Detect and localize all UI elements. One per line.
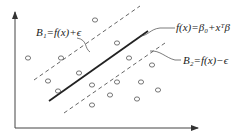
data-point — [89, 83, 94, 87]
upper-label-leader — [77, 38, 90, 52]
data-point — [45, 79, 50, 83]
data-point — [114, 41, 119, 45]
svr-diagram: B₁=f(x)+ϵ f(x)=β₀+xᵀβ B₂=f(x)−ϵ — [0, 0, 245, 140]
data-point — [89, 103, 94, 107]
upper-boundary-label: B₁=f(x)+ϵ — [36, 26, 82, 39]
data-point — [126, 56, 131, 60]
lower-label-leader — [150, 51, 181, 60]
data-point — [58, 56, 63, 60]
lower-boundary-label: B₂=f(x)−ϵ — [183, 54, 229, 67]
data-point — [149, 63, 154, 67]
lower-boundary-line — [64, 43, 165, 113]
data-point — [155, 88, 160, 92]
data-point — [55, 89, 60, 93]
upper-boundary-line — [34, 6, 140, 80]
regression-line — [49, 31, 148, 101]
data-point — [25, 56, 30, 60]
data-point — [138, 80, 143, 84]
data-point — [134, 97, 139, 101]
data-point — [76, 71, 81, 75]
data-point — [107, 93, 112, 97]
data-point — [92, 18, 97, 22]
data-point — [114, 80, 119, 84]
regression-label: f(x)=β₀+xᵀβ — [176, 21, 231, 34]
boundary-lines — [34, 6, 165, 113]
